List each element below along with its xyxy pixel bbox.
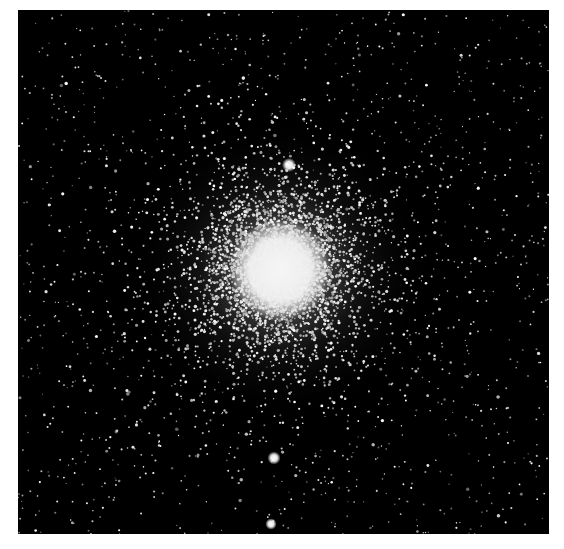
- star-cluster-photo: Dense bright core with scattered field s…: [18, 10, 549, 534]
- star-field-canvas: [18, 10, 549, 534]
